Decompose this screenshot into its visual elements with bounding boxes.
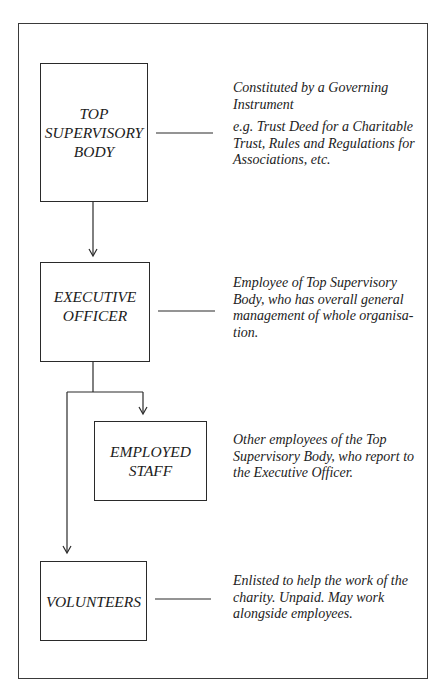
description-executive-officer: Employee of Top Supervisory Body, who ha… bbox=[233, 275, 423, 347]
description-text: Employee of Top Supervisory Body, who ha… bbox=[233, 275, 423, 341]
description-volunteers: Enlisted to help the work of the charity… bbox=[233, 573, 423, 629]
description-text: Other employees of the Top Supervisory B… bbox=[233, 432, 423, 482]
description-employed-staff: Other employees of the Top Supervisory B… bbox=[233, 432, 423, 488]
description-text: Constituted by a Governing Instrument bbox=[233, 80, 428, 113]
node-employed-staff: EMPLOYED STAFF bbox=[94, 421, 207, 501]
description-text: Enlisted to help the work of the charity… bbox=[233, 573, 423, 623]
node-volunteers: VOLUNTEERS bbox=[40, 561, 147, 641]
description-top-supervisory-body: Constituted by a Governing Instrument e.… bbox=[233, 80, 428, 175]
description-text: e.g. Trust Deed for a Charitable Trust, … bbox=[233, 119, 428, 169]
node-label: EXECUTIVE OFFICER bbox=[54, 287, 137, 325]
node-top-supervisory-body: TOP SUPERVISORY BODY bbox=[40, 63, 148, 202]
node-label: TOP SUPERVISORY BODY bbox=[45, 104, 143, 161]
node-label: VOLUNTEERS bbox=[46, 592, 141, 611]
node-executive-officer: EXECUTIVE OFFICER bbox=[40, 262, 150, 362]
node-label: EMPLOYED STAFF bbox=[110, 442, 191, 480]
